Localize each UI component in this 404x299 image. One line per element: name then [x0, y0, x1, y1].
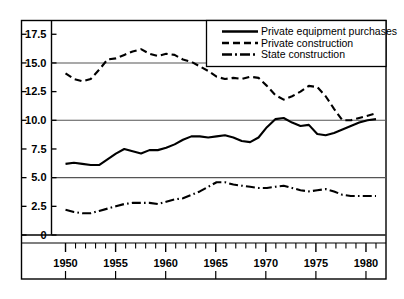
x-tick-label: 1960 [153, 257, 177, 269]
y-tick-label: 0 [40, 229, 46, 241]
x-tick-label: 1950 [53, 257, 77, 269]
x-tick-label: 1980 [354, 257, 378, 269]
y-tick-label: 17.5 [25, 28, 46, 40]
y-tick-label: 15.0 [25, 57, 46, 69]
line-chart: 02.55.07.510.012.515.017.5 1950195519601… [0, 0, 404, 299]
y-tick-label: 7.5 [31, 143, 46, 155]
x-tick-label: 1965 [204, 257, 228, 269]
x-tick-label: 1970 [254, 257, 278, 269]
y-tick-label: 12.5 [25, 85, 46, 97]
legend-label: Private equipment purchases [261, 25, 397, 37]
legend-label: Private construction [261, 37, 353, 49]
y-tick-label: 2.5 [31, 200, 46, 212]
chart-container: 02.55.07.510.012.515.017.5 1950195519601… [0, 0, 404, 299]
y-tick-label: 5.0 [31, 171, 46, 183]
legend-label: State construction [261, 48, 345, 60]
x-tick-label: 1955 [103, 257, 127, 269]
y-tick-label: 10.0 [25, 114, 46, 126]
x-tick-label: 1975 [304, 257, 328, 269]
legend: Private equipment purchasesPrivate const… [207, 21, 398, 67]
